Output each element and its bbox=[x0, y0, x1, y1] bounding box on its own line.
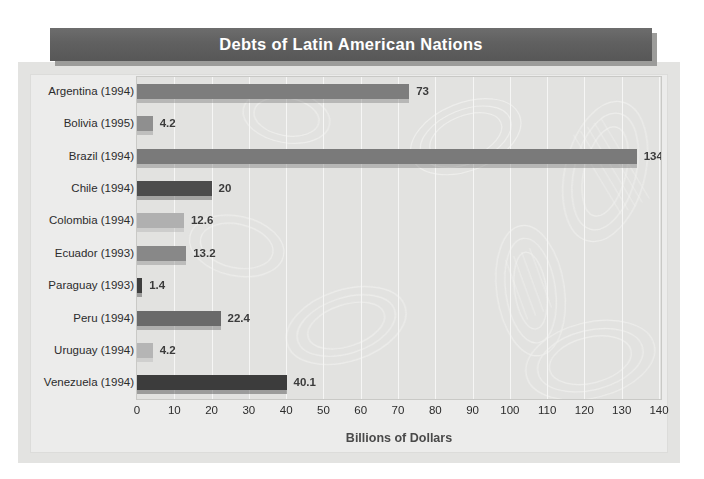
plot-area: 734.21342012.613.21.422.44.240.1 bbox=[136, 76, 662, 400]
axis-tick-label: 90 bbox=[466, 403, 479, 418]
bar[interactable] bbox=[137, 181, 212, 200]
bar-value-label: 4.2 bbox=[160, 116, 176, 131]
bar[interactable] bbox=[137, 149, 637, 168]
category-label: Venezuela (1994) bbox=[44, 375, 134, 389]
axis-title: Billions of Dollars bbox=[136, 431, 662, 445]
bar-shadow bbox=[137, 164, 637, 168]
chart-title: Debts of Latin American Nations bbox=[219, 35, 483, 54]
bar-value-label: 40.1 bbox=[294, 375, 316, 390]
category-label: Argentina (1994) bbox=[48, 84, 134, 98]
bars-layer: 734.21342012.613.21.422.44.240.1 bbox=[137, 77, 661, 399]
bar-fill bbox=[137, 181, 212, 196]
bar-value-label: 20 bbox=[219, 181, 232, 196]
bar-fill bbox=[137, 213, 184, 228]
bar-value-label: 13.2 bbox=[193, 246, 215, 261]
bar-fill bbox=[137, 84, 409, 99]
axis-tick-label: 110 bbox=[538, 403, 556, 418]
bar[interactable] bbox=[137, 84, 409, 103]
bar[interactable] bbox=[137, 343, 153, 362]
bar-shadow bbox=[137, 99, 409, 103]
bar-shadow bbox=[137, 326, 221, 330]
title-banner: Debts of Latin American Nations bbox=[50, 28, 652, 61]
axis-tick-label: 70 bbox=[392, 403, 405, 418]
bar[interactable] bbox=[137, 311, 221, 330]
axis-tick-label: 80 bbox=[429, 403, 442, 418]
axis-tick-label: 120 bbox=[575, 403, 594, 418]
axis-tick-label: 100 bbox=[500, 403, 519, 418]
axis-tick-label: 30 bbox=[242, 403, 255, 418]
axis-tick-label: 10 bbox=[168, 403, 181, 418]
bar-fill bbox=[137, 343, 153, 358]
bar-shadow bbox=[137, 228, 184, 232]
axis-tick-label: 40 bbox=[280, 403, 293, 418]
category-label: Paraguay (1993) bbox=[48, 278, 134, 292]
bar-value-label: 73 bbox=[416, 84, 429, 99]
bar-shadow bbox=[137, 261, 186, 265]
bar[interactable] bbox=[137, 213, 184, 232]
chart-figure: Debts of Latin American Nations Argentin… bbox=[0, 0, 704, 479]
axis-tick-label: 130 bbox=[612, 403, 631, 418]
bar-fill bbox=[137, 116, 153, 131]
category-label: Brazil (1994) bbox=[69, 149, 134, 163]
bar-value-label: 134 bbox=[644, 149, 662, 164]
bar-fill bbox=[137, 278, 142, 293]
bar-shadow bbox=[137, 390, 287, 394]
bar[interactable] bbox=[137, 375, 287, 394]
bar[interactable] bbox=[137, 246, 186, 265]
axis-tick-label: 0 bbox=[134, 403, 140, 418]
category-axis-labels: Argentina (1994)Bolivia (1995)Brazil (19… bbox=[34, 76, 134, 400]
category-label: Chile (1994) bbox=[71, 181, 134, 195]
bar-fill bbox=[137, 375, 287, 390]
bar-value-label: 4.2 bbox=[160, 343, 176, 358]
bar-fill bbox=[137, 246, 186, 261]
category-label: Ecuador (1993) bbox=[55, 246, 134, 260]
axis-tick-label: 140 bbox=[649, 403, 668, 418]
axis-tick-label: 20 bbox=[205, 403, 218, 418]
category-label: Uruguay (1994) bbox=[54, 343, 134, 357]
bar-shadow bbox=[137, 358, 153, 362]
bar[interactable] bbox=[137, 278, 142, 297]
category-label: Bolivia (1995) bbox=[64, 116, 134, 130]
value-axis-ticks: 0102030405060708090100110120130140 bbox=[136, 403, 662, 421]
bar[interactable] bbox=[137, 116, 153, 135]
bar-shadow bbox=[137, 131, 153, 135]
bar-shadow bbox=[137, 196, 212, 200]
bar-value-label: 1.4 bbox=[149, 278, 165, 293]
bar-value-label: 12.6 bbox=[191, 213, 213, 228]
category-label: Colombia (1994) bbox=[49, 213, 134, 227]
axis-tick-label: 50 bbox=[317, 403, 330, 418]
category-label: Peru (1994) bbox=[73, 311, 134, 325]
bar-fill bbox=[137, 149, 637, 164]
bar-value-label: 22.4 bbox=[228, 311, 250, 326]
axis-tick-label: 60 bbox=[354, 403, 367, 418]
bar-shadow bbox=[137, 293, 142, 297]
bar-fill bbox=[137, 311, 221, 326]
